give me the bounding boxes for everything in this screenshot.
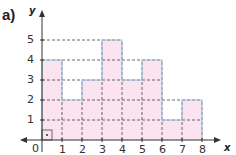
bar (162, 120, 182, 140)
x-axis-left-arrow-icon (20, 137, 27, 143)
x-axis-arrow-icon (214, 137, 221, 143)
bar (122, 80, 142, 140)
right-angle-dot (46, 134, 48, 136)
histogram-chart (0, 0, 236, 155)
bar (82, 80, 102, 140)
bar (102, 40, 122, 140)
y-axis-arrow-icon (39, 10, 45, 17)
